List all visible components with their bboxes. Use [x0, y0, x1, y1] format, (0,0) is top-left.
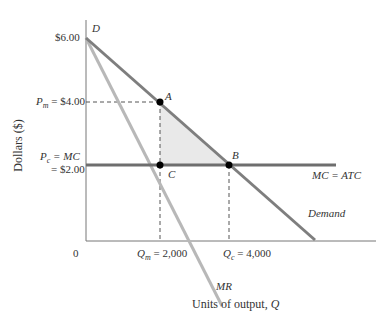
y-axis-label: Dollars ($) — [11, 119, 26, 171]
point-b — [226, 162, 233, 169]
mc-atc-label: MC = ATC — [312, 169, 361, 181]
demand-label: Demand — [308, 207, 345, 219]
y-tick-2: = $2.00 — [51, 163, 85, 175]
mr-curve — [86, 38, 222, 306]
label-b: B — [232, 149, 239, 161]
label-a: A — [165, 90, 172, 102]
label-d: D — [92, 22, 100, 34]
x-axis-label: Units of output, Q — [192, 297, 279, 312]
x-tick-qc: Qc = 4,000 — [223, 247, 271, 262]
demand-curve — [86, 38, 315, 240]
point-c — [157, 162, 164, 169]
label-c: C — [168, 168, 175, 180]
y-tick-6: $6.00 — [55, 31, 80, 43]
x-tick-qm: Qm = 2,000 — [137, 247, 187, 262]
point-a — [157, 99, 164, 106]
origin-label: 0 — [73, 247, 79, 259]
mr-label: MR — [216, 280, 232, 292]
y-tick-pm: Pm = $4.00 — [36, 95, 85, 110]
